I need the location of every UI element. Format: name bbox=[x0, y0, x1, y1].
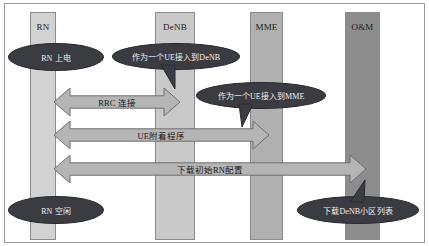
callout-rn-power-on: RN 上电 bbox=[8, 43, 104, 71]
callout-label-access-denb-as-ue: 作为一个UE接入到DeNB bbox=[112, 43, 240, 70]
callout-download-denb-cell-list: 下载DeNB小区列表 bbox=[297, 196, 419, 224]
callout-access-denb-as-ue: 作为一个UE接入到DeNB bbox=[112, 43, 240, 70]
lifeline-label-rn: RN bbox=[0, 22, 86, 32]
lifeline-label-oam: O&M bbox=[315, 22, 410, 32]
lifeline-label-mme: MME bbox=[220, 22, 313, 32]
callout-label-rn-idle: RN 空闲 bbox=[8, 196, 104, 224]
callout-label-download-denb-cell-list: 下载DeNB小区列表 bbox=[297, 196, 419, 224]
lifeline-label-denb: DeNB bbox=[125, 22, 225, 32]
callout-access-mme-as-ue: 作为一个UE接入到MME bbox=[196, 82, 326, 109]
sequence-diagram-canvas: RNDeNBMMEO&M RRC 连接UE附着程序下载初始RN配置 RN 上电作… bbox=[0, 0, 429, 246]
callout-rn-idle: RN 空闲 bbox=[8, 196, 104, 224]
message-label-download-initial-rn-config: 下载初始RN配置 bbox=[54, 163, 366, 175]
callout-label-rn-power-on: RN 上电 bbox=[8, 43, 104, 71]
callout-label-access-mme-as-ue: 作为一个UE接入到MME bbox=[196, 82, 326, 109]
